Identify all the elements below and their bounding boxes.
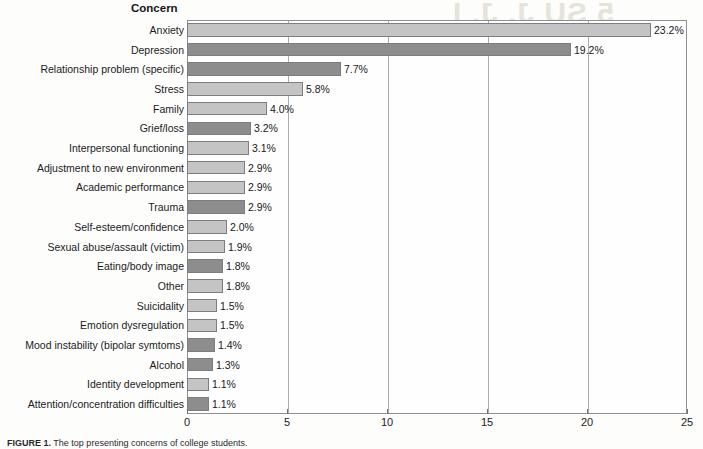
bar-value-label: 3.2% (251, 122, 278, 134)
bar-wrapper (187, 299, 217, 313)
category-label: Family (0, 103, 184, 115)
bar-value-label: 3.1% (249, 142, 276, 154)
figure-caption: FIGURE 1. The top presenting concerns of… (7, 438, 247, 449)
bar-row: Trauma2.9% (0, 197, 703, 217)
bar-wrapper (187, 102, 267, 116)
category-label: Grief/loss (0, 122, 184, 134)
category-label: Alcohol (0, 359, 184, 371)
x-axis-tick-mark (387, 409, 388, 414)
bar-wrapper (187, 82, 303, 96)
bar-value-label: 1.5% (217, 300, 244, 312)
bar (187, 122, 251, 136)
bar-value-label: 23.2% (651, 24, 684, 36)
bar-wrapper (187, 43, 571, 57)
category-label: Self-esteem/confidence (0, 221, 184, 233)
bar-row: Self-esteem/confidence2.0% (0, 217, 703, 237)
x-axis-tick-mark (487, 409, 488, 414)
bar-wrapper (187, 338, 215, 352)
bar-wrapper (187, 122, 251, 136)
bar (187, 43, 571, 57)
x-axis-tick-mark (187, 409, 188, 414)
category-label: Adjustment to new environment (0, 162, 184, 174)
bar (187, 319, 217, 333)
bar-value-label: 2.9% (245, 162, 272, 174)
bar (187, 141, 249, 155)
category-label: Relationship problem (specific) (0, 63, 184, 75)
x-axis-tick-label: 15 (481, 416, 493, 428)
bar-value-label: 1.8% (223, 280, 250, 292)
figure-caption-text: The top presenting concerns of college s… (51, 438, 247, 448)
bar-value-label: 2.0% (227, 221, 254, 233)
category-label: Anxiety (0, 24, 184, 36)
bar-wrapper (187, 220, 227, 234)
bar-row: Grief/loss3.2% (0, 119, 703, 139)
figure-caption-label: FIGURE 1. (7, 438, 51, 448)
bar (187, 378, 209, 392)
chart-title: Concern (131, 2, 178, 14)
category-label: Emotion dysregulation (0, 319, 184, 331)
bar-value-label: 19.2% (571, 44, 604, 56)
bar-value-label: 1.1% (209, 398, 236, 410)
bar-wrapper (187, 161, 245, 175)
bar-row: Stress5.8% (0, 79, 703, 99)
bar-wrapper (187, 319, 217, 333)
x-axis: 0510152025 (0, 414, 703, 434)
x-axis-tick-label: 20 (581, 416, 593, 428)
bar (187, 358, 213, 372)
category-label: Stress (0, 83, 184, 95)
bar (187, 161, 245, 175)
bar (187, 338, 215, 352)
bar (187, 299, 217, 313)
bar-value-label: 1.8% (223, 260, 250, 272)
bar (187, 62, 341, 76)
category-label: Eating/body image (0, 260, 184, 272)
bar-wrapper (187, 200, 245, 214)
bar-wrapper (187, 181, 245, 195)
category-label: Other (0, 280, 184, 292)
bar (187, 23, 651, 37)
bar (187, 200, 245, 214)
bar-row: Anxiety23.2% (0, 20, 703, 40)
bar-value-label: 4.0% (267, 103, 294, 115)
x-axis-tick-label: 25 (681, 416, 693, 428)
category-label: Trauma (0, 201, 184, 213)
x-axis-tick-label: 10 (381, 416, 393, 428)
bar-wrapper (187, 279, 223, 293)
bar-row: Depression19.2% (0, 40, 703, 60)
bar-row: Adjustment to new environment2.9% (0, 158, 703, 178)
bar-row: Eating/body image1.8% (0, 256, 703, 276)
x-axis-tick-label: 5 (284, 416, 290, 428)
category-label: Identity development (0, 378, 184, 390)
x-axis-tick-mark (587, 409, 588, 414)
category-label: Interpersonal functioning (0, 142, 184, 154)
bar-value-label: 1.3% (213, 359, 240, 371)
bar-wrapper (187, 240, 225, 254)
bar-wrapper (187, 141, 249, 155)
x-axis-tick-mark (687, 409, 688, 414)
bar-wrapper (187, 62, 341, 76)
bar-row: Academic performance2.9% (0, 178, 703, 198)
category-label: Depression (0, 44, 184, 56)
bar-wrapper (187, 378, 209, 392)
bar (187, 181, 245, 195)
category-label: Attention/concentration difficulties (0, 398, 184, 410)
bar-value-label: 1.1% (209, 378, 236, 390)
bar-row: Family4.0% (0, 99, 703, 119)
bar (187, 220, 227, 234)
bar-value-label: 7.7% (341, 63, 368, 75)
bar-wrapper (187, 259, 223, 273)
bar-value-label: 1.9% (225, 241, 252, 253)
bar-row: Other1.8% (0, 276, 703, 296)
bar-row: Suicidality1.5% (0, 296, 703, 316)
bar-row: Attention/concentration difficulties1.1% (0, 394, 703, 414)
bar-value-label: 1.4% (215, 339, 242, 351)
x-axis-tick-label: 0 (184, 416, 190, 428)
bar-row: Relationship problem (specific)7.7% (0, 59, 703, 79)
category-label: Academic performance (0, 181, 184, 193)
bar (187, 82, 303, 96)
bar (187, 279, 223, 293)
bar-wrapper (187, 397, 209, 411)
bar (187, 259, 223, 273)
bar-rows-container: Anxiety23.2%Depression19.2%Relationship … (0, 20, 703, 414)
bar-value-label: 1.5% (217, 319, 244, 331)
